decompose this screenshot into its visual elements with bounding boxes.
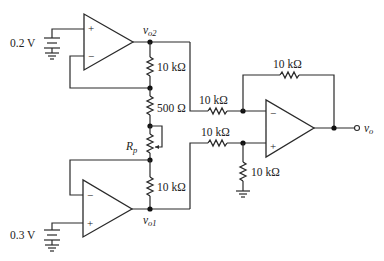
- opamp-top: + −: [84, 14, 133, 70]
- node-vo1-label: vo1: [143, 214, 157, 228]
- resistor-500-label: 500 Ω: [157, 102, 186, 114]
- opamp-bottom-minus-sign: −: [87, 189, 93, 201]
- opamp-output: − +: [266, 100, 314, 157]
- feedback-wire-top: [70, 56, 150, 88]
- resistor-top-10k: [147, 57, 153, 76]
- resistor-in-minus-label: 10 kΩ: [199, 94, 228, 106]
- output-terminal: [355, 126, 360, 131]
- node-vo2-label: vo2: [143, 24, 157, 38]
- opamp-output-minus-sign: −: [270, 107, 276, 119]
- resistor-in-plus: [208, 140, 227, 146]
- resistor-feedback-label: 10 kΩ: [273, 58, 302, 70]
- opamp-top-plus-sign: +: [88, 22, 94, 34]
- node-vo1: [147, 206, 152, 211]
- source-bottom-label: 0.3 V: [10, 229, 36, 241]
- opamp-bottom: − +: [83, 180, 132, 237]
- feedback-wire-bottom: [70, 160, 150, 195]
- resistor-500: [147, 96, 153, 115]
- resistor-in-minus: [208, 108, 227, 114]
- potentiometer-rp: [147, 134, 153, 153]
- resistor-bottom-10k: [147, 177, 153, 196]
- resistor-feedback: [280, 72, 299, 78]
- resistor-ground: [240, 162, 246, 181]
- voltage-source-bottom: 0.3 V: [10, 223, 83, 251]
- circuit-diagram: + − 0.2 V vo2 10 kΩ 500 Ω Rp: [0, 0, 384, 261]
- resistor-bottom-10k-label: 10 kΩ: [157, 181, 186, 193]
- opamp-bottom-plus-sign: +: [87, 217, 93, 229]
- resistor-top-10k-label: 10 kΩ: [157, 61, 186, 73]
- source-top-label: 0.2 V: [10, 37, 36, 49]
- node-output: [331, 125, 336, 130]
- voltage-source-top: 0.2 V: [10, 29, 84, 59]
- opamp-output-plus-sign: +: [270, 140, 276, 152]
- resistor-ground-label: 10 kΩ: [251, 166, 280, 178]
- potentiometer-label: Rp: [125, 140, 137, 155]
- resistor-in-plus-label: 10 kΩ: [201, 126, 230, 138]
- opamp-top-minus-sign: −: [88, 50, 94, 62]
- node-vo-label: vo: [364, 122, 373, 136]
